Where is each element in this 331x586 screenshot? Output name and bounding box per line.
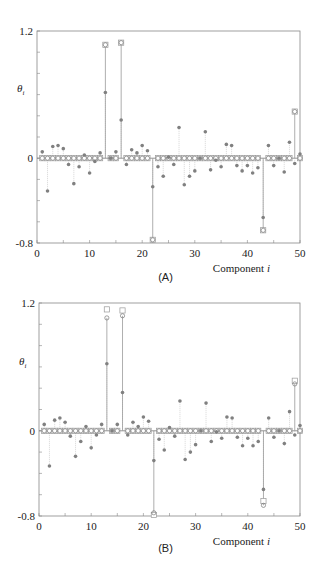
observation-marker xyxy=(183,458,187,462)
observation-marker xyxy=(225,143,229,147)
observation-marker xyxy=(95,433,99,437)
observation-marker xyxy=(262,488,266,492)
panel-label-b: (B) xyxy=(0,542,331,554)
observation-marker xyxy=(116,423,120,427)
observation-marker xyxy=(146,149,150,153)
x-tick-label: 0 xyxy=(34,247,40,259)
observation-marker xyxy=(246,436,250,440)
panel-label-a: (A) xyxy=(0,271,331,283)
observation-marker xyxy=(56,144,60,148)
observation-marker xyxy=(240,169,244,173)
x-tick-label: 30 xyxy=(190,520,202,532)
observation-marker xyxy=(77,165,81,169)
observation-marker xyxy=(135,151,139,155)
plot-frame xyxy=(37,31,300,243)
observation-marker xyxy=(188,174,192,178)
observation-marker xyxy=(272,435,276,439)
y-tick-label: 0 xyxy=(30,425,36,437)
observation-marker xyxy=(194,443,198,447)
observation-marker xyxy=(251,171,255,175)
panel-a: -0.801.201020304050Component iθi (A) xyxy=(0,0,331,290)
observation-marker xyxy=(125,163,129,167)
observation-marker xyxy=(72,182,76,186)
observation-marker xyxy=(282,170,286,174)
observation-marker xyxy=(62,147,66,151)
observation-marker xyxy=(256,440,260,444)
observation-marker xyxy=(142,415,146,419)
observation-marker xyxy=(46,189,50,193)
observation-marker xyxy=(209,440,213,444)
x-tick-label: 10 xyxy=(86,520,98,532)
x-tick-label: 20 xyxy=(138,520,150,532)
observation-marker xyxy=(246,164,250,168)
observation-marker xyxy=(88,171,92,175)
y-axis-label: θi xyxy=(19,355,26,370)
observation-marker xyxy=(147,419,151,423)
x-tick-label: 20 xyxy=(137,247,149,259)
observation-marker xyxy=(173,434,177,438)
observation-marker xyxy=(162,448,166,452)
observation-marker xyxy=(172,163,176,167)
observation-marker xyxy=(79,440,83,444)
observation-marker xyxy=(225,415,229,419)
observation-marker xyxy=(261,216,265,220)
y-tick-label: -0.8 xyxy=(18,510,36,522)
true-value-marker xyxy=(104,307,109,312)
observation-marker xyxy=(109,156,113,160)
observation-marker xyxy=(220,436,224,440)
observation-marker xyxy=(288,141,292,145)
observation-marker xyxy=(168,426,172,430)
true-value-marker xyxy=(120,308,125,313)
observation-marker xyxy=(241,444,245,448)
observation-marker xyxy=(277,429,281,433)
observation-marker xyxy=(40,150,44,154)
observation-marker xyxy=(161,174,165,178)
y-tick-label: 1.2 xyxy=(19,25,33,37)
observation-marker xyxy=(157,438,161,442)
observation-marker xyxy=(58,416,62,420)
observation-marker xyxy=(267,144,271,148)
observation-marker xyxy=(236,435,240,439)
observation-marker xyxy=(293,433,297,437)
observation-marker xyxy=(298,152,302,156)
observation-marker xyxy=(98,151,102,155)
observation-marker xyxy=(42,423,46,427)
observation-marker xyxy=(136,425,140,429)
observation-marker xyxy=(177,126,181,130)
observation-marker xyxy=(272,164,276,168)
observation-marker xyxy=(121,391,125,395)
observation-marker xyxy=(119,118,123,122)
scatter-plot-a: -0.801.201020304050Component iθi xyxy=(0,0,331,290)
observation-marker xyxy=(83,153,87,157)
observation-marker xyxy=(151,185,155,189)
observation-marker xyxy=(215,430,219,434)
observation-marker xyxy=(51,145,55,149)
observation-marker xyxy=(93,160,97,164)
observation-marker xyxy=(104,91,108,95)
observation-marker xyxy=(230,144,234,148)
observation-marker xyxy=(53,418,57,422)
y-axis-label: θi xyxy=(17,82,24,97)
observation-marker xyxy=(67,163,71,167)
y-tick-label: -0.8 xyxy=(16,237,34,249)
x-tick-label: 10 xyxy=(84,247,96,259)
observation-marker xyxy=(182,183,186,187)
x-tick-label: 50 xyxy=(295,520,307,532)
observation-marker xyxy=(114,150,118,154)
observation-marker xyxy=(277,156,281,160)
observation-marker xyxy=(267,416,271,420)
observation-marker xyxy=(298,424,302,428)
observation-marker xyxy=(126,433,130,437)
x-tick-label: 30 xyxy=(189,247,201,259)
x-tick-label: 40 xyxy=(242,247,254,259)
observation-marker xyxy=(251,444,255,448)
observation-marker xyxy=(214,159,218,163)
observation-marker xyxy=(131,420,135,424)
observation-marker xyxy=(105,362,109,366)
y-tick-label: 1.2 xyxy=(21,297,35,309)
x-tick-label: 40 xyxy=(242,520,254,532)
observation-marker xyxy=(189,450,193,454)
y-tick-label: 0 xyxy=(28,152,34,164)
observation-marker xyxy=(156,165,160,169)
plot-frame xyxy=(39,303,300,516)
